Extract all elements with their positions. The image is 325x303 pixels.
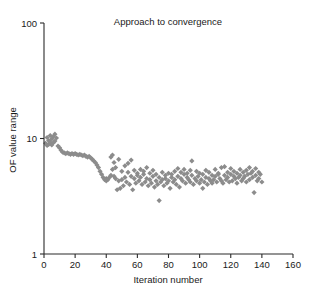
x-axis-title: Iteration number (133, 274, 202, 285)
x-tick-label: 140 (254, 259, 270, 270)
x-tick-label: 40 (101, 259, 112, 270)
x-tick-label: 60 (132, 259, 143, 270)
y-tick-label: 100 (21, 18, 37, 29)
x-tick-label: 80 (163, 259, 174, 270)
chart-background (0, 0, 325, 303)
y-axis-title: OF value range (7, 107, 18, 172)
y-tick-label: 1 (32, 249, 37, 260)
y-tick-label: 10 (26, 133, 37, 144)
x-tick-label: 100 (192, 259, 208, 270)
x-tick-label: 120 (223, 259, 239, 270)
x-tick-label: 160 (285, 259, 301, 270)
figure-caption-strip (0, 293, 325, 303)
convergence-scatter-chart: Approach to convergence 0204060801001201… (0, 0, 325, 303)
chart-title: Approach to convergence (114, 16, 222, 27)
x-tick-label: 0 (41, 259, 46, 270)
x-tick-label: 20 (70, 259, 81, 270)
figure-container: Approach to convergence 0204060801001201… (0, 0, 325, 303)
